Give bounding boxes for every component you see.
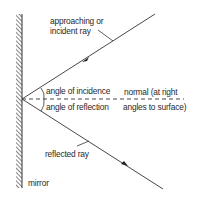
angle-incidence-label: angle of incidence [46, 86, 110, 96]
angle-reflection-arc [41, 99, 44, 111]
mirror [16, 14, 22, 188]
reflected-label: reflected ray [45, 149, 89, 159]
normal-label-line2: angles to surface) [123, 102, 186, 112]
mirror-label: mirror [28, 178, 49, 188]
incident-leader [98, 30, 113, 41]
normal-label-line1: normal (at right [124, 87, 177, 97]
incident-label-line2: incident ray [50, 26, 91, 36]
angle-incidence-arc [41, 88, 44, 99]
angle-reflection-label: angle of reflection [46, 102, 109, 112]
reflected-ray [22, 99, 163, 189]
reflected-arrow-icon [121, 161, 128, 166]
reflected-leader [77, 141, 89, 146]
